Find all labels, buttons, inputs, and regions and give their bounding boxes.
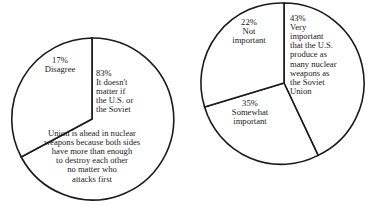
pie-chart-figure: 17% Disagree 83% It doesn't matter if th… — [0, 0, 369, 210]
left-pie-label-disagree: 17% Disagree — [26, 56, 94, 74]
left-pie-label-doesnt-matter: 83% It doesn't matter if the U.S. or the… — [96, 69, 158, 115]
right-pie-label-somewhat-important: 35% Somewhat important — [214, 99, 286, 126]
right-pie-label-not-important: 22% Not important — [216, 18, 282, 45]
left-pie-label-doesnt-matter-continued: Union is ahead in nuclear weapons becaus… — [14, 129, 170, 184]
right-pie-label-very-important: 43% Very important that the U.S. produce… — [290, 14, 356, 96]
